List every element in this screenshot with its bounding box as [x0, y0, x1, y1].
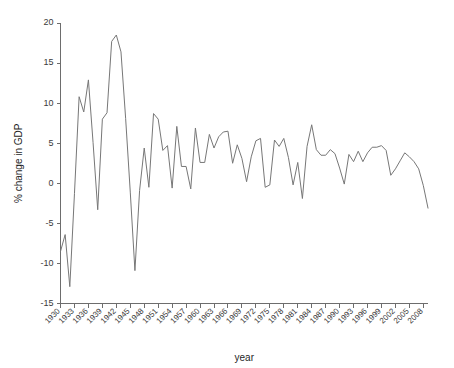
x-tick-label: 2008: [406, 306, 425, 325]
y-tick-label: 5: [48, 138, 53, 148]
x-axis-title: year: [235, 352, 255, 363]
y-tick-label: 20: [43, 17, 53, 27]
y-tick-label: -15: [40, 298, 53, 308]
y-tick-label: 0: [48, 178, 53, 188]
gdp-line-chart: -15-10-505101520193019331936193919421945…: [0, 0, 454, 368]
y-tick-label: 10: [43, 98, 53, 108]
y-axis-title: % change in GDP: [13, 123, 24, 203]
chart-canvas: -15-10-505101520193019331936193919421945…: [0, 0, 454, 368]
y-tick-label: 15: [43, 57, 53, 67]
gdp-series-line: [61, 35, 429, 287]
y-tick-label: -10: [40, 258, 53, 268]
y-tick-label: -5: [45, 218, 53, 228]
